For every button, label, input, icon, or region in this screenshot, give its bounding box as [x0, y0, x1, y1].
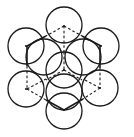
- vertex-bottom-left: [25, 88, 27, 90]
- vertex-top-left: [25, 45, 27, 47]
- vertex-bottom: [63, 109, 65, 111]
- vertex-bottom-right: [99, 87, 101, 89]
- vertex-top: [63, 25, 65, 27]
- vertex-center: [63, 69, 65, 71]
- vertex-top-right: [100, 45, 102, 47]
- fcc-lattice-diagram: [0, 0, 134, 137]
